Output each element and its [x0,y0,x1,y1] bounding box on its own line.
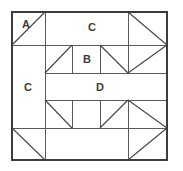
label-d: D [96,82,104,93]
quilt-block-diagram: ACBCD [0,0,183,171]
label-b: B [83,54,91,65]
label-c-top: C [88,22,96,33]
label-a: A [22,19,30,30]
label-c-left: C [24,82,32,93]
